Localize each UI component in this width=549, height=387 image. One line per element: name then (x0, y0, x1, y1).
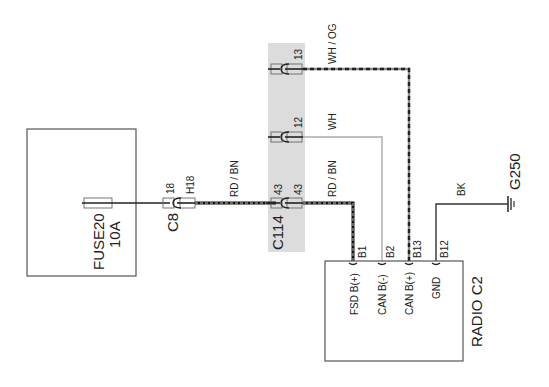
connector-c114-pin-43-left-label: 43 (273, 183, 284, 195)
wire-wh-og-stripe (303, 69, 409, 261)
wire-wh-og (303, 69, 409, 261)
ground-g250-label: G250 (506, 153, 523, 190)
wire-wh-label: WH (327, 113, 338, 130)
radio-pin-b2-label: CAN B(-) (377, 274, 388, 315)
connector-c114-pin-43-right-label: 43 (293, 183, 304, 195)
wire-rdbn-segment-2 (303, 203, 353, 261)
connector-c8-label: C8 (164, 213, 181, 232)
wire-rdbn-label-2: RD / BN (327, 160, 338, 197)
radio-c2-box (325, 261, 463, 361)
wiring-diagram: FUSE20 10A C8 18 H18 RD / BN C114 43 43 … (0, 0, 549, 387)
connector-c114-pin-12-label: 12 (293, 116, 304, 128)
radio-c2-label: RADIO C2 (468, 276, 485, 347)
radio-pin-b12-id: B12 (439, 240, 450, 258)
wire-bk-label: BK (456, 182, 467, 196)
radio-pin-b12-icon (432, 263, 440, 265)
wire-rdbn-segment-2-stripe (303, 203, 353, 261)
connector-c8-pin-left-label: 18 (165, 182, 176, 194)
radio-pin-b1-label: FSD B(+) (349, 273, 360, 315)
fuse-rating-label: 10A (106, 221, 123, 248)
radio-pin-b12-label: GND (431, 277, 442, 299)
wire-wh-og-label: WH / OG (327, 23, 338, 64)
radio-pin-b13-label: CAN B(+) (404, 272, 415, 315)
radio-pin-b1-icon (349, 263, 357, 265)
connector-c8-pin-right-label: H18 (185, 175, 196, 194)
wire-wh (303, 137, 382, 261)
fuse-name-label: FUSE20 (90, 213, 107, 270)
radio-pin-b2-icon (378, 263, 386, 265)
ground-icon (508, 196, 514, 212)
radio-pin-b13-icon (405, 263, 413, 265)
connector-c114-label: C114 (269, 215, 286, 250)
radio-pin-b1-id: B1 (357, 245, 368, 258)
radio-pin-b2-id: B2 (385, 245, 396, 258)
connector-c114-pin-13-label: 13 (293, 48, 304, 60)
radio-pin-b13-id: B13 (412, 240, 423, 258)
wire-rdbn-label-1: RD / BN (229, 160, 240, 197)
